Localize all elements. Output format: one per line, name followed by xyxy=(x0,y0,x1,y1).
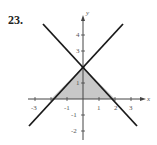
y-tick-label: 3 xyxy=(76,47,80,55)
y-tick-label: -2 xyxy=(71,127,77,135)
x-tick-label: 3 xyxy=(129,104,133,112)
graph: x y -3 -1 1 2 3 -2 -1 1 3 4 xyxy=(0,0,157,145)
y-tick-label: 1 xyxy=(76,79,80,87)
x-tick-label: -3 xyxy=(31,104,37,112)
y-axis-label: y xyxy=(85,9,90,17)
x-tick-label: 1 xyxy=(97,104,101,112)
y-tick-label: -1 xyxy=(71,111,77,119)
x-axis-arrow-icon xyxy=(140,97,146,101)
y-axis-arrow-icon xyxy=(81,15,85,21)
x-axis-label: x xyxy=(146,95,151,103)
x-tick-label: -1 xyxy=(64,104,70,112)
y-tick-label: 4 xyxy=(76,31,80,39)
line-y-equals-neg-x-plus-2 xyxy=(43,24,137,126)
